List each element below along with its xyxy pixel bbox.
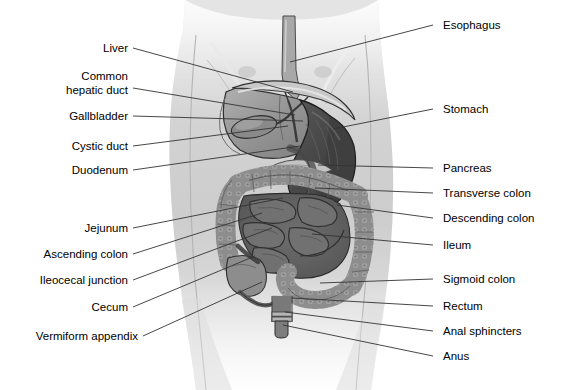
label-pancreas: Pancreas (443, 162, 492, 176)
label-vermiform-appendix: Vermiform appendix (36, 330, 138, 344)
label-text-descending-colon: Descending colon (443, 212, 534, 224)
label-jejunum: Jejunum (85, 222, 128, 236)
label-descending-colon: Descending colon (443, 212, 534, 226)
label-text-pancreas: Pancreas (443, 162, 492, 174)
label-text-esophagus: Esophagus (443, 19, 501, 31)
label-anus: Anus (443, 350, 469, 364)
label-transverse-colon: Transverse colon (443, 187, 531, 201)
label-text-anus: Anus (443, 350, 469, 362)
label-rectum: Rectum (443, 300, 483, 314)
label-text-duodenum: Duodenum (72, 164, 128, 176)
label-text-gallbladder: Gallbladder (69, 110, 128, 122)
label-ileum: Ileum (443, 239, 471, 253)
label-anal-sphincters: Anal sphincters (443, 325, 522, 339)
label-text-rectum: Rectum (443, 300, 483, 312)
label-sigmoid-colon: Sigmoid colon (443, 273, 515, 287)
label-text-stomach: Stomach (443, 103, 488, 115)
label-common-hepatic-duct: Commonhepatic duct (66, 70, 128, 97)
label-duodenum: Duodenum (72, 164, 128, 178)
label-text-cecum: Cecum (92, 301, 128, 313)
label-ileocecal-junction: Ileocecal junction (40, 274, 128, 288)
label-stomach: Stomach (443, 103, 488, 117)
label-ascending-colon: Ascending colon (44, 248, 128, 262)
label-text-common-hepatic-duct: Common (81, 70, 128, 82)
label-text-cystic-duct: Cystic duct (72, 140, 128, 152)
label-text-liver: Liver (103, 42, 128, 54)
label-text-sigmoid-colon: Sigmoid colon (443, 273, 515, 285)
label-text-anal-sphincters: Anal sphincters (443, 325, 522, 337)
digestive-system-figure: LiverCommonhepatic ductGallbladderCystic… (0, 0, 567, 390)
label-text-ascending-colon: Ascending colon (44, 248, 128, 260)
label-cecum: Cecum (92, 301, 128, 315)
label-text-jejunum: Jejunum (85, 222, 128, 234)
anal-sphincters-structure (272, 312, 292, 321)
label-text-ileocecal-junction: Ileocecal junction (40, 274, 128, 286)
label-text-ileum: Ileum (443, 239, 471, 251)
label-cystic-duct: Cystic duct (72, 140, 128, 154)
label-gallbladder: Gallbladder (69, 110, 128, 124)
anus-structure (275, 321, 288, 338)
label-text2-common-hepatic-duct: hepatic duct (66, 84, 128, 98)
label-text-transverse-colon: Transverse colon (443, 187, 531, 199)
label-text-vermiform-appendix: Vermiform appendix (36, 330, 138, 342)
label-esophagus: Esophagus (443, 19, 501, 33)
label-liver: Liver (103, 42, 128, 56)
